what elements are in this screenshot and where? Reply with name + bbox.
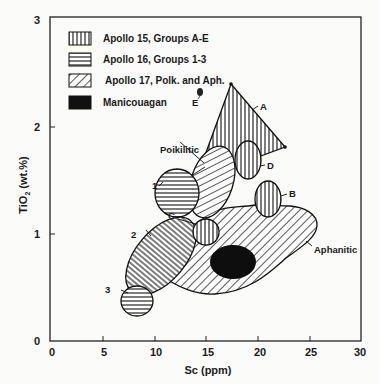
field-1 [155, 169, 199, 217]
x-axis-title: Sc (ppm) [184, 364, 231, 376]
x-tick-15: 15 [202, 346, 214, 358]
y-tick-2: 2 [34, 121, 40, 133]
label-aphanitic: Aphanitic [314, 244, 357, 255]
x-tick-20: 20 [254, 346, 266, 358]
vertex-dot [229, 82, 233, 86]
tio2-vs-sc-chart: 0 1 2 3 0 5 10 15 20 25 30 Sc (ppm) TiO2… [0, 0, 379, 384]
x-tick-5: 5 [101, 346, 107, 358]
field-c [193, 219, 219, 245]
y-axis-title: TiO2 (wt.%) [17, 156, 31, 214]
x-tick-25: 25 [305, 346, 317, 358]
y-tick-3: 3 [34, 14, 40, 26]
y-tick-1: 1 [34, 228, 40, 240]
legend-swatch-apollo16 [69, 53, 91, 66]
legend-label-apollo15: Apollo 15, Groups A-E [103, 33, 209, 44]
label-group-3: 3 [105, 284, 110, 295]
legend-label-manicouagan: Manicouagan [103, 97, 167, 108]
x-tick-30: 30 [354, 346, 366, 358]
legend-label-apollo17: Apollo 17, Polk. and Aph. [105, 75, 225, 86]
label-b: B [289, 188, 296, 199]
label-c: C [168, 210, 175, 221]
label-group-2: 2 [131, 229, 136, 240]
x-tick-10: 10 [150, 346, 162, 358]
point-e [197, 88, 203, 96]
field-3 [121, 286, 153, 316]
legend-swatch-manicouagan [69, 96, 91, 109]
vertex-dot [283, 145, 287, 149]
legend-swatch-apollo17 [69, 74, 91, 87]
y-axis [50, 127, 55, 234]
y-tick-0: 0 [34, 335, 40, 347]
field-d [235, 141, 261, 179]
label-group-1: 1 [152, 180, 158, 191]
svg-text:TiO2 (wt.%): TiO2 (wt.%) [17, 156, 31, 214]
legend: Apollo 15, Groups A-E Apollo 16, Groups … [69, 32, 225, 109]
x-axis [103, 336, 310, 341]
field-b [255, 181, 281, 217]
label-d: D [267, 160, 274, 171]
x-tick-0: 0 [49, 346, 55, 358]
label-poikilitic: Poikilitic [160, 144, 199, 155]
field-manicouagan [210, 245, 256, 279]
legend-label-apollo16: Apollo 16, Groups 1-3 [103, 54, 207, 65]
legend-swatch-apollo15 [69, 32, 91, 45]
label-a: A [260, 101, 267, 112]
label-e: E [192, 97, 198, 108]
